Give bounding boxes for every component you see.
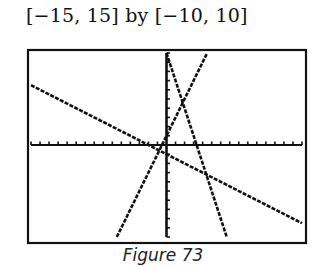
calculator-graph bbox=[0, 0, 326, 267]
figure-caption: Figure 73 bbox=[0, 245, 326, 265]
